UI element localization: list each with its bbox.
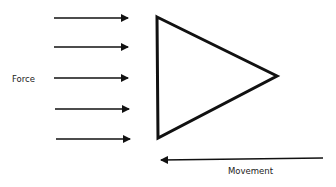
movement-label: Movement — [228, 166, 273, 176]
force-movement-diagram: Force Movement — [0, 0, 336, 187]
force-arrows — [54, 18, 130, 139]
triangle-object — [157, 17, 277, 138]
diagram-canvas — [0, 0, 336, 187]
force-label: Force — [12, 74, 35, 84]
movement-arrow — [161, 158, 323, 160]
